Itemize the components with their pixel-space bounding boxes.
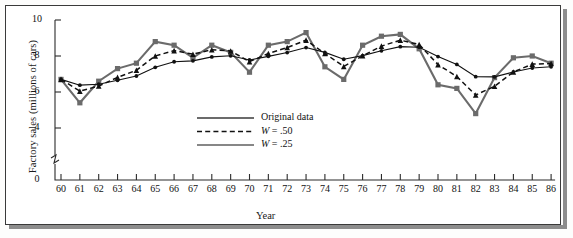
- series-marker: [115, 66, 120, 71]
- legend-symbol: W: [261, 125, 269, 136]
- series-marker: [512, 70, 516, 74]
- series-marker: [380, 49, 384, 53]
- y-tick-label: 8: [25, 49, 49, 60]
- x-tick-label: 65: [145, 183, 165, 194]
- series-marker: [285, 39, 290, 44]
- series-marker: [398, 45, 402, 49]
- figure-container: Factory sales (millions of cars) Year 04…: [0, 0, 573, 238]
- x-tick-label: 70: [240, 183, 260, 194]
- legend-label: W = .50: [261, 125, 292, 136]
- series-marker: [379, 34, 384, 39]
- series-marker: [134, 61, 139, 66]
- series-group: [58, 30, 554, 116]
- series-marker: [247, 70, 252, 75]
- series-marker: [454, 86, 459, 91]
- series-marker: [266, 43, 271, 48]
- y-tick-label: 6: [25, 85, 49, 96]
- series-marker: [304, 46, 308, 50]
- legend-label: W = .25: [261, 138, 292, 149]
- x-tick-label: 69: [221, 183, 241, 194]
- series-marker: [435, 62, 441, 68]
- series-marker: [511, 55, 516, 60]
- x-tick-label: 61: [70, 183, 90, 194]
- x-tick-label: 64: [126, 183, 146, 194]
- x-tick-label: 68: [202, 183, 222, 194]
- series-marker: [342, 57, 346, 61]
- x-tick-label: 83: [485, 183, 505, 194]
- series-marker: [59, 78, 63, 82]
- series-marker: [360, 43, 365, 48]
- figure-frame: Factory sales (millions of cars) Year 04…: [5, 5, 561, 225]
- x-axis-line: [55, 164, 555, 180]
- series-line: [61, 47, 551, 86]
- x-tick-label: 82: [466, 183, 486, 194]
- series-marker: [210, 55, 214, 59]
- series-marker: [530, 53, 535, 58]
- x-tick-label: 60: [51, 183, 71, 194]
- x-tick-label: 75: [334, 183, 354, 194]
- x-tick-label: 79: [409, 183, 429, 194]
- x-tick-label: 81: [447, 183, 467, 194]
- x-tick-label: 85: [522, 183, 542, 194]
- series-marker: [77, 100, 82, 105]
- x-tick-label: 84: [503, 183, 523, 194]
- x-tick-label: 78: [390, 183, 410, 194]
- x-tick-label: 66: [164, 183, 184, 194]
- series-marker: [229, 54, 233, 58]
- y-tick-label: 10: [25, 13, 49, 24]
- series-marker: [473, 111, 478, 116]
- series-marker: [266, 54, 270, 58]
- figure-shadow-right: [563, 9, 567, 229]
- series-marker: [153, 39, 158, 44]
- series-marker: [135, 74, 139, 78]
- series-marker: [436, 55, 440, 59]
- x-tick-label: 74: [315, 183, 335, 194]
- series-marker: [454, 74, 460, 80]
- y-tick-label: 4: [25, 121, 49, 132]
- series-line: [61, 33, 551, 114]
- series-marker: [78, 83, 82, 87]
- x-tick-label: 67: [183, 183, 203, 194]
- x-tick-label: 72: [277, 183, 297, 194]
- legend-label: Original data: [261, 111, 313, 122]
- series-marker: [455, 63, 459, 67]
- series-marker: [323, 51, 327, 55]
- series-marker: [172, 60, 176, 64]
- series-marker: [493, 75, 497, 79]
- series-marker: [341, 77, 346, 82]
- series-marker: [285, 51, 289, 55]
- series-marker: [361, 54, 365, 58]
- legend-group: [197, 118, 254, 145]
- x-tick-label: 77: [371, 183, 391, 194]
- x-tick-label: 76: [353, 183, 373, 194]
- series-marker: [191, 59, 195, 63]
- axis-group: [51, 20, 555, 180]
- series-marker: [322, 64, 327, 69]
- series-marker: [248, 58, 252, 62]
- x-tick-label: 63: [108, 183, 128, 194]
- series-marker: [398, 32, 403, 37]
- series-marker: [417, 45, 421, 49]
- series-marker: [97, 82, 101, 86]
- series-marker: [116, 78, 120, 82]
- x-tick-label: 71: [258, 183, 278, 194]
- series-marker: [172, 43, 177, 48]
- series-marker: [473, 92, 479, 98]
- series-marker: [303, 30, 308, 35]
- legend-symbol: W: [261, 138, 269, 149]
- y-axis-break-icon: [51, 155, 59, 163]
- series-marker: [530, 66, 534, 70]
- x-tick-label: 86: [541, 183, 561, 194]
- x-tick-label: 80: [428, 183, 448, 194]
- x-tick-label: 73: [296, 183, 316, 194]
- y-tick-label: 0: [25, 173, 49, 184]
- series-marker: [474, 75, 478, 79]
- x-tick-label: 62: [89, 183, 109, 194]
- series-marker: [435, 82, 440, 87]
- series-marker: [153, 65, 157, 69]
- series-marker: [549, 65, 553, 69]
